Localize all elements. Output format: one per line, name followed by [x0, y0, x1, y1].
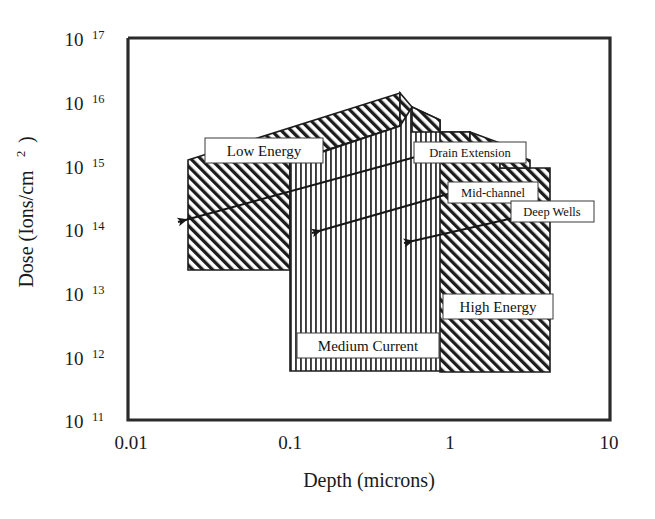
x-axis-title: Depth (microns) [303, 469, 435, 492]
region-label-text: Medium Current [318, 338, 419, 354]
x-tick-1: 0.1 [278, 432, 302, 453]
x-tick-3: 10 [600, 432, 619, 453]
x-tick-2: 1 [445, 432, 455, 453]
y-tick-exponent: 16 [92, 92, 105, 106]
y-tick-exponent: 11 [92, 410, 104, 424]
y-tick-exponent: 14 [92, 219, 105, 233]
y-tick-mantissa: 10 [65, 220, 84, 241]
y-tick-exponent: 13 [92, 283, 105, 297]
region-high-energy [440, 132, 550, 372]
y-tick-exponent: 12 [92, 347, 105, 361]
region-label-deep-wells: Deep Wells [511, 201, 594, 222]
region-label-text: Deep Wells [523, 205, 581, 219]
y-tick-mantissa: 10 [65, 29, 84, 50]
x-tick-0: 0.01 [114, 432, 147, 453]
region-label-mid-channel: Mid-channel [448, 182, 538, 203]
y-tick-mantissa: 10 [65, 157, 84, 178]
y-axis-title-close: ) [15, 136, 38, 143]
chart-figure: 10 17 10 16 10 15 10 14 10 13 10 12 10 1… [0, 0, 655, 519]
y-axis-title-superscript: 2 [14, 151, 28, 157]
y-tick-exponent: 17 [92, 28, 105, 42]
region-label-text: High Energy [460, 299, 537, 315]
implant-regions-chart: 10 17 10 16 10 15 10 14 10 13 10 12 10 1… [0, 0, 655, 519]
region-label-text: Mid-channel [461, 186, 525, 200]
y-axis-title-main: Dose (Ions/cm [15, 170, 38, 288]
y-tick-mantissa: 10 [65, 93, 84, 114]
region-label-drain-extension: Drain Extension [414, 142, 526, 163]
y-tick-mantissa: 10 [65, 348, 84, 369]
y-tick-mantissa: 10 [65, 411, 84, 432]
region-label-high-energy: High Energy [443, 294, 553, 319]
region-label-text: Drain Extension [429, 146, 511, 160]
region-label-text: Low Energy [227, 143, 302, 159]
region-label-medium-current: Medium Current [297, 333, 439, 358]
y-tick-exponent: 15 [92, 156, 105, 170]
y-tick-mantissa: 10 [65, 284, 84, 305]
region-label-low-energy: Low Energy [205, 138, 323, 163]
